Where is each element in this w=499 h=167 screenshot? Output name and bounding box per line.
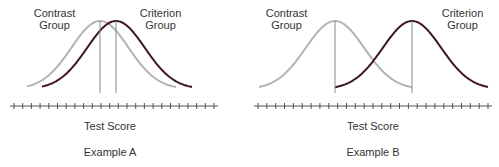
example-a-plot: [10, 21, 218, 109]
example-a-title: Example A: [84, 146, 137, 158]
example-a-criterion-group-label: Criterion Group: [133, 7, 188, 31]
example-b-axis-label: Test Score: [347, 120, 399, 132]
example-b-plot: [254, 21, 492, 109]
example-a-axis-label: Test Score: [84, 120, 136, 132]
example-b-contrast-group-label: Contrast Group: [259, 7, 314, 31]
figure: Contrast Group Criterion Group Test Scor…: [0, 0, 499, 167]
example-b-title: Example B: [346, 146, 399, 158]
example-a-contrast-group-label: Contrast Group: [27, 7, 82, 31]
example-b-criterion-group-label: Criterion Group: [435, 7, 490, 31]
